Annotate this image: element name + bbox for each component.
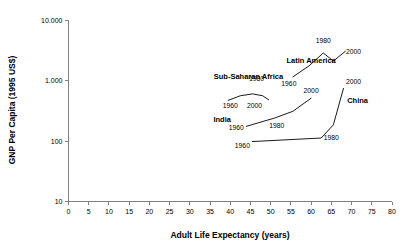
year-label: 1980: [269, 122, 284, 129]
x-tick-label: 5: [87, 208, 91, 215]
x-tick-label: 50: [267, 208, 275, 215]
gnp-life-expectancy-chart: 101001.00010.000 05101520253035404550556…: [0, 0, 406, 252]
x-axis-ticks: 05101520253035404550556065707580: [67, 202, 396, 215]
series-label: India: [213, 115, 231, 124]
y-axis-title: GNP Per Capita (1995 US$): [7, 56, 17, 165]
year-label: 1980: [316, 37, 331, 44]
year-label: 1960: [281, 80, 296, 87]
year-label: 1980: [324, 134, 339, 141]
x-tick-label: 20: [145, 208, 153, 215]
year-label: 1980: [249, 75, 264, 82]
x-tick-label: 65: [327, 208, 335, 215]
year-label: 1960: [223, 102, 238, 109]
series-line: [228, 94, 268, 100]
x-tick-label: 30: [186, 208, 194, 215]
x-tick-label: 10: [105, 208, 113, 215]
x-tick-label: 60: [307, 208, 315, 215]
x-tick-label: 25: [166, 208, 174, 215]
year-label: 1960: [229, 124, 244, 131]
x-axis-title: Adult Life Expectancy (years): [170, 230, 289, 240]
x-tick-label: 55: [287, 208, 295, 215]
year-label: 2000: [346, 78, 361, 85]
x-tick-label: 80: [388, 208, 396, 215]
x-tick-label: 35: [206, 208, 214, 215]
y-tick-label: 10.000: [41, 17, 63, 24]
year-label: 2000: [247, 102, 262, 109]
x-tick-label: 75: [368, 208, 376, 215]
x-tick-label: 15: [125, 208, 133, 215]
series-label: China: [347, 96, 369, 105]
year-label: 2000: [304, 87, 319, 94]
series-name-labels: Latin AmericaSub-Saharan AfricaIndiaChin…: [213, 56, 368, 124]
y-tick-label: 10: [55, 198, 63, 205]
chart-canvas: 101001.00010.000 05101520253035404550556…: [0, 0, 406, 252]
x-tick-label: 40: [226, 208, 234, 215]
x-axis: 05101520253035404550556065707580: [67, 202, 396, 215]
x-tick-label: 0: [67, 208, 71, 215]
year-annotations: 1960198020001960198020001960198020001960…: [223, 37, 362, 148]
year-label: 2000: [346, 48, 361, 55]
y-tick-label: 1.000: [45, 77, 63, 84]
x-tick-label: 45: [247, 208, 255, 215]
x-tick-label: 70: [348, 208, 356, 215]
year-label: 1960: [235, 142, 250, 149]
y-tick-label: 100: [51, 138, 63, 145]
series-label: Latin America: [286, 56, 336, 65]
y-axis-ticks: 101001.00010.000: [41, 17, 68, 206]
y-axis: 101001.00010.000: [41, 17, 68, 206]
